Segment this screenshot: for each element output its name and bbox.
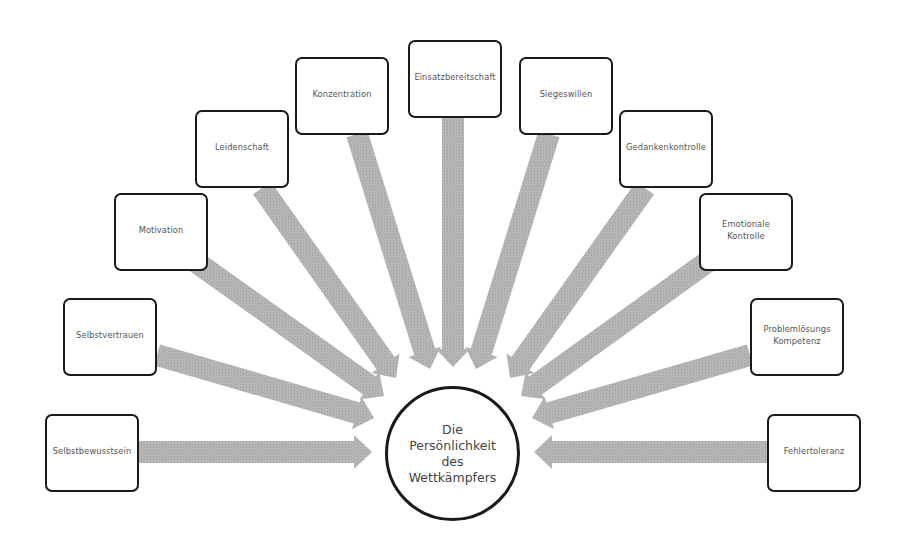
node-label: Selbstvertrauen (76, 329, 144, 341)
node-label: Fehlertoleranz (784, 445, 845, 457)
node-label: Leidenschaft (215, 141, 269, 153)
node-label: Konzentration (312, 88, 371, 100)
node-label: Gedankenkontrolle (626, 141, 706, 153)
node-leidenschaft: Leidenschaft (195, 110, 289, 188)
node-motivation: Motivation (114, 193, 208, 271)
node-label: Emotionale Kontrolle (722, 218, 770, 242)
node-label: Problemlösungs Kompetenz (763, 323, 830, 347)
arrow-selbstbewusstsein (138, 435, 372, 469)
node-emotionale-kontrolle: Emotionale Kontrolle (699, 193, 793, 271)
center-circle: Die Persönlichkeit des Wettkämpfers (385, 386, 520, 521)
node-selbstbewusstsein: Selbstbewusstsein (45, 414, 139, 492)
node-label: Motivation (139, 224, 184, 236)
node-label: Einsatzbereitschaft (414, 71, 495, 83)
node-label: Selbstbewusstsein (53, 445, 132, 457)
arrow-einsatzbereitschaft (436, 116, 470, 367)
center-label: Die Persönlichkeit des Wettkämpfers (409, 422, 497, 486)
node-einsatzbereitschaft: Einsatzbereitschaft (408, 40, 502, 118)
node-label: Siegeswillen (540, 88, 593, 100)
node-fehlertoleranz: Fehlertoleranz (767, 414, 861, 492)
node-selbstvertrauen: Selbstvertrauen (63, 298, 157, 376)
node-gedankenkontrolle: Gedankenkontrolle (619, 110, 713, 188)
arrow-fehlertoleranz (534, 435, 767, 469)
node-siegeswillen: Siegeswillen (519, 57, 613, 135)
node-problemloesungs-kompetenz: Problemlösungs Kompetenz (750, 298, 844, 376)
node-konzentration: Konzentration (295, 57, 389, 135)
